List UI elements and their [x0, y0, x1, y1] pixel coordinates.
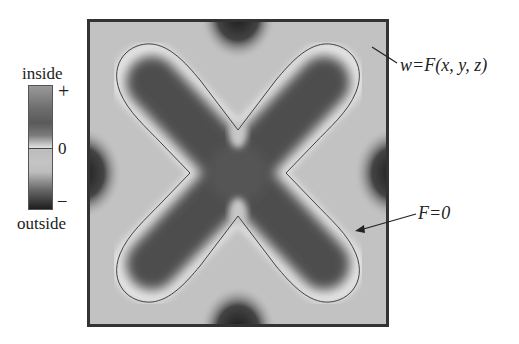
bottom-dark-region [200, 286, 276, 324]
legend-plus-tick: + [58, 80, 69, 103]
legend-inside-label: inside [22, 64, 63, 84]
legend-minus-tick: – [58, 190, 67, 210]
x-shape-inside [152, 82, 324, 264]
legend-zero-line [28, 148, 53, 149]
left-dark-region [90, 127, 122, 219]
legend-outside-label: outside [17, 214, 66, 234]
top-dark-region [200, 22, 276, 60]
legend-zero-tick: 0 [58, 139, 67, 159]
field-function-label: w=F(x, y, z) [400, 55, 487, 76]
zero-contour-label: F=0 [418, 203, 450, 224]
field-image [90, 22, 386, 324]
implicit-function-plot [87, 19, 389, 327]
right-dark-region [354, 127, 386, 219]
